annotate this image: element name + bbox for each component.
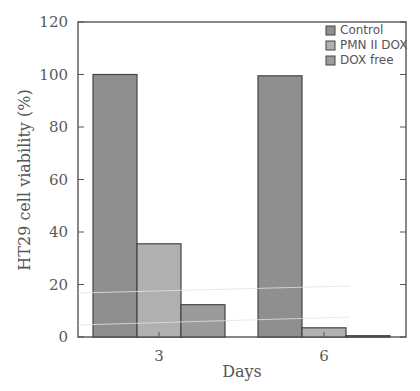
legend-label: PMN II DOX [340,38,407,52]
bar-control-day-6 [258,76,302,337]
bar-chart: 020406080100120 36 ControlPMN II DOXDOX … [0,0,420,391]
legend: ControlPMN II DOXDOX free [326,23,407,67]
legend-swatch [326,41,335,50]
legend-label: DOX free [340,53,394,67]
y-tick-label: 40 [49,223,68,241]
bars [78,75,390,338]
bar-dox-free-day-6 [346,336,390,337]
x-tick-label: 6 [319,347,329,365]
y-tick-label: 20 [49,276,68,294]
x-axis-title: Days [222,362,262,381]
bar-control-day-3 [93,75,137,338]
legend-swatch [326,26,335,35]
y-tick-label: 80 [49,118,68,136]
legend-swatch [326,56,335,65]
y-tick-label: 60 [49,171,68,189]
y-tick-label: 100 [39,66,68,84]
x-tick-label: 3 [154,347,164,365]
legend-label: Control [340,23,383,37]
y-tick-label: 0 [58,328,68,346]
y-axis-title: HT29 cell viability (%) [15,89,34,270]
y-tick-label: 120 [39,13,68,31]
